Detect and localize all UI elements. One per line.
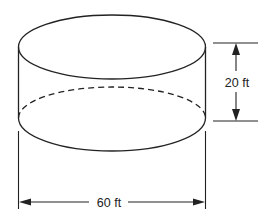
cylinder-bottom-front-arc xyxy=(19,118,206,151)
cylinder-top-ellipse xyxy=(19,15,206,79)
arrow-down-icon xyxy=(232,109,240,121)
cylinder xyxy=(19,15,206,151)
arrow-up-icon xyxy=(232,43,240,55)
cylinder-diagram: 20 ft 60 ft xyxy=(0,0,271,221)
arrow-right-icon xyxy=(193,199,205,206)
diameter-label: 60 ft xyxy=(97,196,122,210)
arrow-left-icon xyxy=(19,199,31,206)
height-label: 20 ft xyxy=(225,76,250,90)
cylinder-bottom-back-arc-hidden xyxy=(19,87,206,118)
